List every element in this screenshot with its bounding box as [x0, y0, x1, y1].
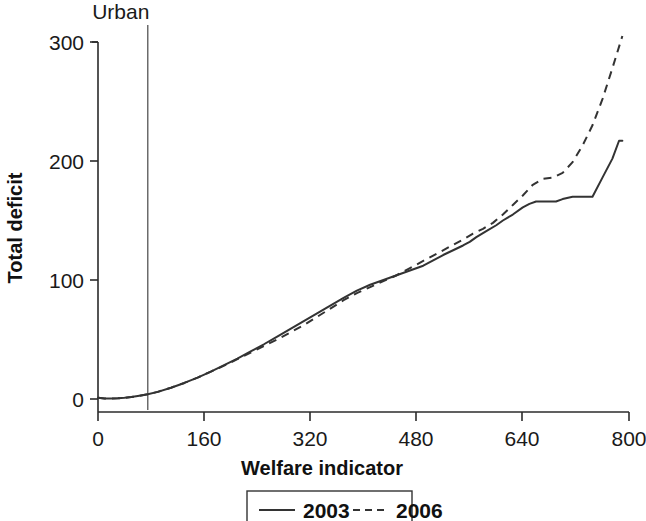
x-tick-label-800: 800	[611, 427, 646, 450]
urban-label: Urban	[92, 0, 149, 23]
legend-label-2003: 2003	[303, 499, 350, 521]
y-tick-label-0: 0	[72, 388, 84, 411]
y-axis-title: Total deficit	[4, 172, 26, 283]
x-tick-label-480: 480	[398, 427, 433, 450]
x-tick-label-320: 320	[292, 427, 327, 450]
chart-figure: 300 200 100 0 0 160 320 480 640 800 Welf…	[0, 0, 646, 521]
y-tick-label-200: 200	[49, 150, 84, 173]
legend-label-2006: 2006	[396, 499, 443, 521]
x-axis-title: Welfare indicator	[241, 457, 403, 479]
y-tick-label-100: 100	[49, 269, 84, 292]
chart-svg: 300 200 100 0 0 160 320 480 640 800 Welf…	[0, 0, 646, 521]
x-tick-label-640: 640	[504, 427, 539, 450]
x-tick-label-160: 160	[186, 427, 221, 450]
x-tick-label-0: 0	[92, 427, 104, 450]
y-tick-label-300: 300	[49, 31, 84, 54]
